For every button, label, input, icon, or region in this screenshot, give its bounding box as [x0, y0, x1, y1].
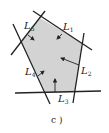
label-l2: L2 — [80, 65, 92, 77]
label-l1: L1 — [62, 21, 73, 33]
figure-caption: c ) — [51, 115, 62, 125]
label-l3: L3 — [57, 93, 69, 105]
label-l5: L5 — [23, 20, 35, 32]
half-plane-diagram: L1L2L3L4L5 c ) — [0, 0, 109, 133]
